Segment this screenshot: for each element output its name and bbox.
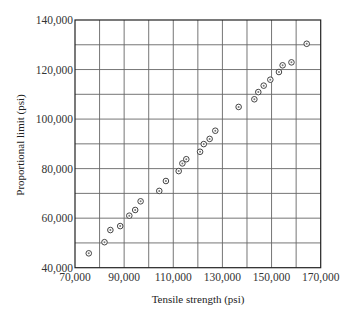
data-point-marker (268, 77, 274, 83)
data-point-marker (132, 207, 138, 213)
data-point-marker (255, 89, 261, 95)
data-point-marker (163, 178, 169, 184)
data-point-marker (289, 60, 295, 66)
x-tick-label: 90,000 (108, 271, 140, 284)
x-tick-label: 150,000 (253, 271, 291, 284)
data-point-marker (117, 223, 123, 229)
data-point-marker (102, 239, 108, 245)
data-point-marker (86, 251, 92, 257)
data-point-marker (126, 213, 132, 219)
data-point-marker (156, 188, 162, 194)
data-point-marker (276, 69, 282, 75)
data-point-marker (304, 41, 310, 47)
x-tick-label: 170,000 (302, 271, 340, 284)
data-point-marker (261, 83, 267, 89)
data-point-marker (212, 128, 218, 134)
y-tick-label: 140,000 (36, 14, 74, 27)
scatter-chart: 70,00090,000110,000130,000150,000170,000… (0, 0, 355, 313)
y-tick-label: 80,000 (41, 163, 73, 176)
x-tick-label: 130,000 (204, 271, 242, 284)
y-tick-label: 60,000 (41, 212, 73, 225)
data-point-marker (280, 63, 286, 69)
data-point-marker (108, 227, 114, 233)
data-point-marker (236, 104, 242, 110)
x-tick-label: 110,000 (155, 271, 192, 284)
y-tick-label: 40,000 (41, 262, 73, 275)
y-tick-label: 120,000 (36, 64, 74, 77)
data-point-marker (252, 96, 258, 102)
y-axis-title: Proportional limit (psi) (14, 94, 27, 196)
data-point-marker (197, 149, 203, 155)
x-axis-title: Tensile strength (psi) (152, 293, 245, 306)
x-axis-tick-labels: 70,00090,000110,000130,000150,000170,000 (59, 271, 339, 284)
y-tick-label: 100,000 (36, 113, 74, 126)
data-point-marker (207, 136, 213, 142)
data-point-marker (201, 141, 207, 147)
data-point-marker (138, 199, 144, 205)
data-point-marker (184, 156, 190, 162)
data-point-marker (176, 168, 182, 174)
y-axis-tick-labels: 40,00060,00080,000100,000120,000140,000 (36, 14, 74, 275)
